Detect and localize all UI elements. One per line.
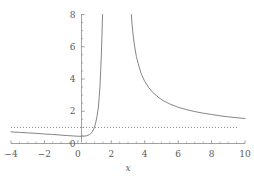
y-tick-label: 8 — [0, 10, 76, 19]
y-tick-label: 4 — [0, 75, 76, 84]
x-tick-label: −4 — [4, 150, 17, 159]
chart-figure: −4−20246810 02468 x — [0, 0, 254, 177]
x-tick-label: 8 — [209, 150, 215, 159]
y-tick-label: 6 — [0, 42, 76, 51]
curve-right-branch — [131, 15, 245, 119]
x-tick-label: 4 — [142, 150, 148, 159]
y-tick-label: 2 — [0, 107, 76, 116]
x-tick-label: 6 — [175, 150, 181, 159]
x-tick-label: 10 — [239, 150, 250, 159]
y-tick-label: 0 — [0, 139, 76, 148]
x-tick-label: 2 — [108, 150, 114, 159]
y-axis-major-ticks — [82, 15, 85, 144]
x-axis-title: x — [125, 164, 130, 173]
x-tick-label: −2 — [38, 150, 51, 159]
x-tick-label: 0 — [75, 150, 81, 159]
